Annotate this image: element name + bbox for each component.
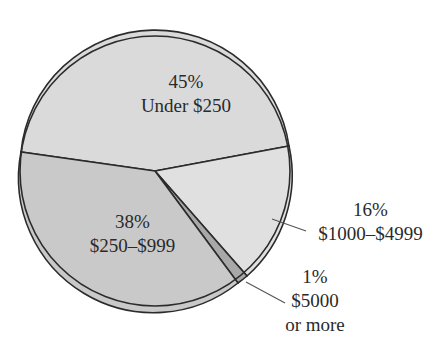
label-5000-name-line1: $5000: [280, 289, 350, 313]
label-under-250-name: Under $250: [125, 94, 247, 118]
label-under-250: 45% Under $250: [125, 70, 247, 118]
pie-chart: [0, 0, 433, 355]
label-under-250-pct: 45%: [125, 70, 247, 94]
label-1000-4999-name: $1000–$4999: [308, 222, 433, 246]
label-5000-or-more: 1% $5000 or more: [280, 265, 350, 337]
label-250-999-name: $250–$999: [75, 234, 190, 258]
label-250-999-pct: 38%: [75, 210, 190, 234]
label-5000-name-line2: or more: [280, 313, 350, 337]
label-250-999: 38% $250–$999: [75, 210, 190, 258]
label-5000-pct: 1%: [280, 265, 350, 289]
label-1000-4999-pct: 16%: [308, 198, 433, 222]
label-1000-4999: 16% $1000–$4999: [308, 198, 433, 246]
